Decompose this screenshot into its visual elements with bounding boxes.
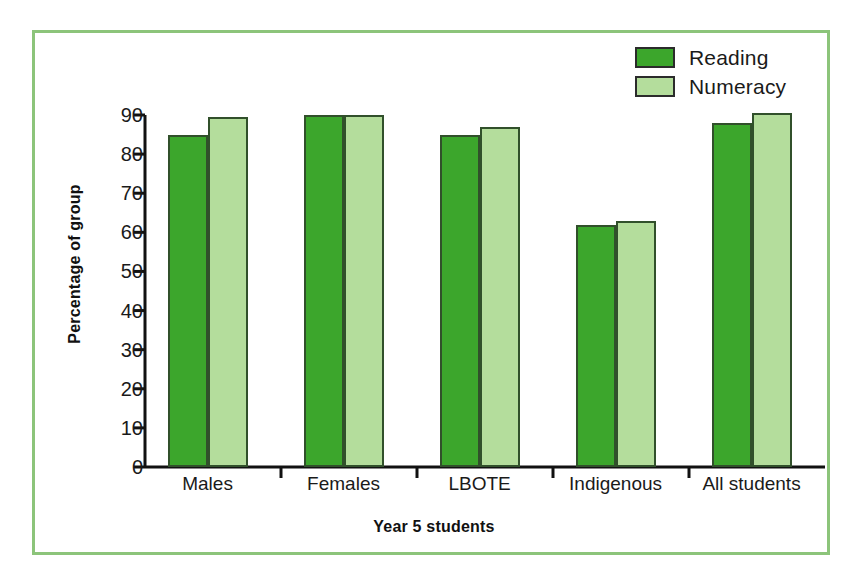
bar-all-students-reading [712, 123, 752, 467]
bar-females-reading [304, 115, 344, 467]
x-tick-label: Indigenous [548, 473, 684, 495]
y-tick-label: 70 [99, 183, 143, 203]
y-tick-label: 20 [99, 379, 143, 399]
x-tick-label: Females [276, 473, 412, 495]
y-tick-label: 10 [99, 418, 143, 438]
x-axis-title: Year 5 students [35, 518, 833, 536]
bar-lbote-reading [440, 135, 480, 467]
bar-males-reading [168, 135, 208, 467]
bar-indigenous-reading [576, 225, 616, 467]
y-tick-label: 80 [99, 144, 143, 164]
bar-lbote-numeracy [480, 127, 520, 467]
y-tick-label: 60 [99, 222, 143, 242]
y-tick-label: 50 [99, 261, 143, 281]
bar-all-students-numeracy [752, 113, 792, 467]
y-tick-label: 40 [99, 301, 143, 321]
y-tick-label: 30 [99, 340, 143, 360]
x-tick-label: LBOTE [412, 473, 548, 495]
chart-plot-area: Reading Numeracy 0102030405060708090 Mal… [35, 33, 833, 558]
y-tick-label: 0 [99, 457, 143, 477]
y-axis-title: Percentage of group [66, 154, 84, 374]
y-tick-label: 90 [99, 105, 143, 125]
bar-females-numeracy [344, 115, 384, 467]
chart-frame: Reading Numeracy 0102030405060708090 Mal… [32, 30, 830, 555]
bar-indigenous-numeracy [616, 221, 656, 467]
x-tick-label: Males [140, 473, 276, 495]
bar-males-numeracy [208, 117, 248, 467]
x-tick-label: All students [684, 473, 820, 495]
